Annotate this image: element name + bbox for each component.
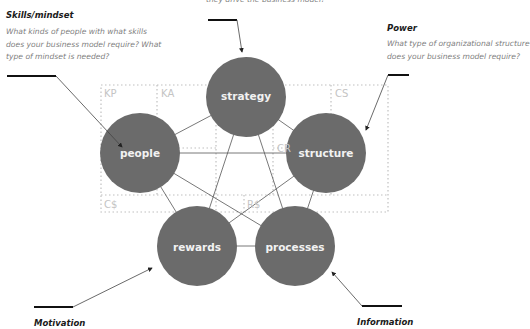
power-heading: Power bbox=[387, 23, 417, 33]
grid-label-customer-segments: CS bbox=[335, 88, 348, 99]
grid-label-revenue-streams: R$ bbox=[247, 199, 260, 210]
grid-label-key-partners: KP bbox=[104, 88, 117, 99]
node-label-rewards: rewards bbox=[173, 241, 221, 253]
skills-mindset-body: What kinds of people with what skills do… bbox=[6, 26, 166, 64]
grid-label-customer-relationships: CR bbox=[277, 143, 291, 154]
organizational-star-diagram: KP KA CS CR C$ R$ strategy people struct… bbox=[0, 0, 530, 329]
information-heading: Information bbox=[357, 317, 413, 327]
node-label-processes: processes bbox=[265, 241, 324, 253]
skills-mindset-heading: Skills/mindset bbox=[6, 10, 73, 20]
strategy-annotation-partial: they drive the business model? bbox=[206, 0, 406, 7]
grid-label-cost-structure: C$ bbox=[104, 199, 117, 210]
node-label-people: people bbox=[120, 147, 160, 159]
grid-label-key-activities: KA bbox=[161, 88, 174, 99]
node-label-strategy: strategy bbox=[221, 90, 271, 102]
node-label-structure: structure bbox=[299, 147, 354, 159]
power-body: What type of organizational structure do… bbox=[387, 38, 530, 63]
motivation-heading: Motivation bbox=[34, 318, 85, 328]
